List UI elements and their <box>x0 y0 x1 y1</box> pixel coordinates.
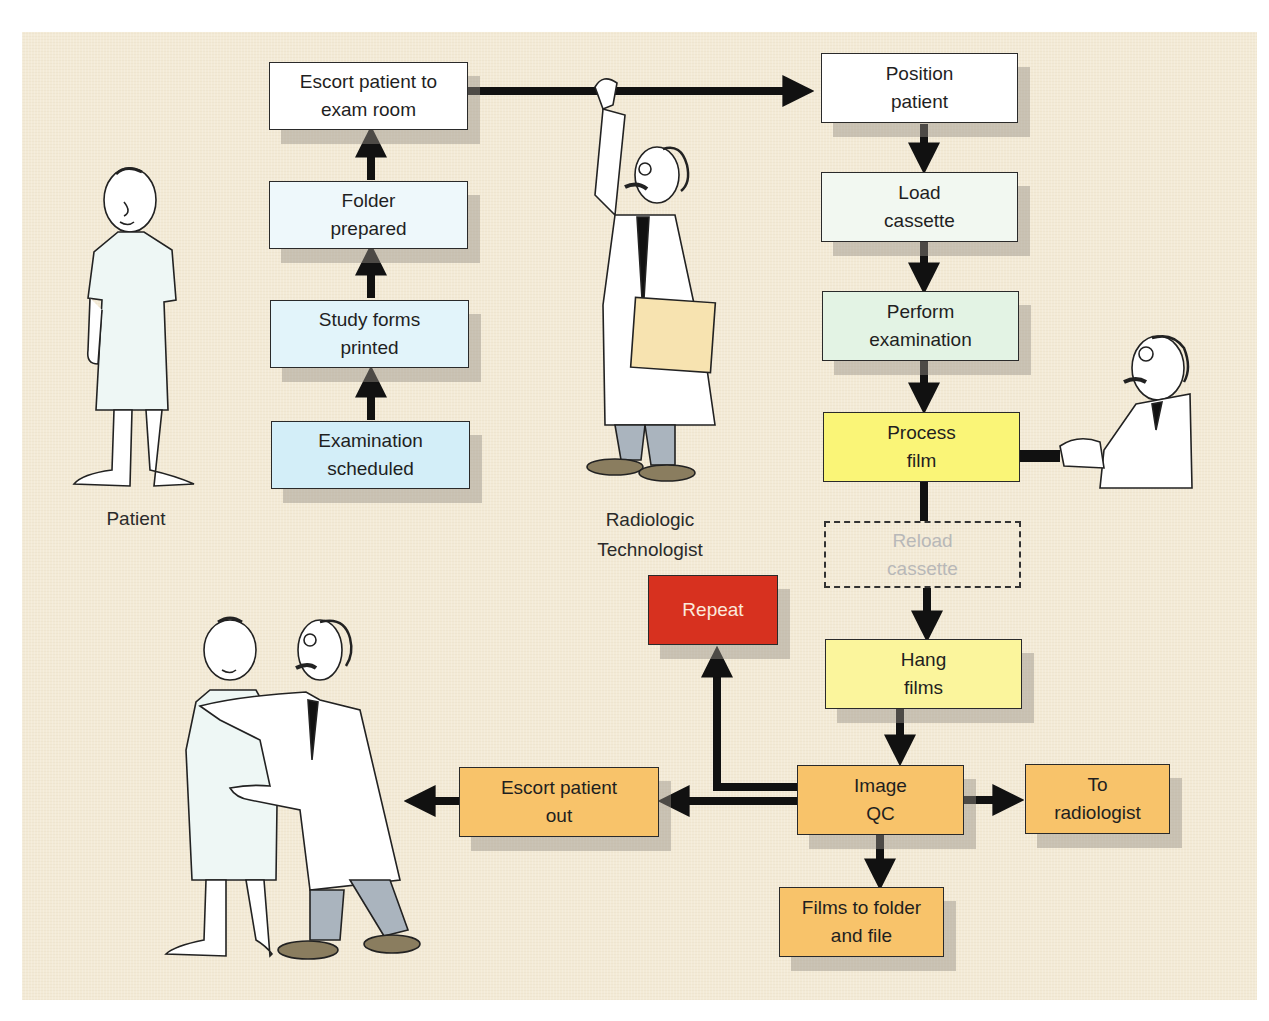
box-text: film <box>887 447 956 475</box>
box-text: examination <box>869 326 971 354</box>
box-folder-prepared: Folderprepared <box>269 181 468 249</box>
arrow-qc-to-repeat <box>717 660 797 787</box>
box-position-patient: Positionpatient <box>821 53 1018 123</box>
box-text: films <box>901 674 946 702</box>
box-escort-patient-out: Escort patientout <box>459 767 659 837</box>
box-text: Reload <box>887 527 958 555</box>
box-text: Examination <box>318 427 423 455</box>
box-text: QC <box>854 800 907 828</box>
box-text: Perform <box>869 298 971 326</box>
box-text: Films to folder <box>802 894 921 922</box>
escort-patient-figure-icon <box>160 610 430 970</box>
box-text: Hang <box>901 646 946 674</box>
box-escort-to-exam-room: Escort patient toexam room <box>269 62 468 130</box>
box-text: Process <box>887 419 956 447</box>
box-hang-films: Hangfilms <box>825 639 1022 709</box>
box-text: prepared <box>330 215 406 243</box>
box-text: Study forms <box>319 306 420 334</box>
box-text: scheduled <box>318 455 423 483</box>
box-text: Escort patient <box>501 774 617 802</box>
box-text: out <box>501 802 617 830</box>
processor-operator-icon <box>1040 320 1200 490</box>
label-line: Technologist <box>597 539 703 560</box>
box-perform-examination: Performexamination <box>822 291 1019 361</box>
technologist-label: Radiologic Technologist <box>580 505 720 565</box>
box-text: Escort patient to <box>300 68 437 96</box>
box-examination-scheduled: Examinationscheduled <box>271 421 470 489</box>
box-text: radiologist <box>1054 799 1141 827</box>
box-study-forms-printed: Study formsprinted <box>270 300 469 368</box>
box-load-cassette: Loadcassette <box>821 172 1018 242</box>
box-films-to-folder-and-file: Films to folderand file <box>779 887 944 957</box>
box-text: Repeat <box>682 596 743 624</box>
label-line: Radiologic <box>606 509 695 530</box>
box-text: cassette <box>887 555 958 583</box>
box-text: Folder <box>330 187 406 215</box>
box-image-qc: ImageQC <box>797 765 964 835</box>
box-text: printed <box>319 334 420 362</box>
box-text: patient <box>886 88 954 116</box>
box-text: and file <box>802 922 921 950</box>
box-process-film: Processfilm <box>823 412 1020 482</box>
box-text: Load <box>884 179 955 207</box>
box-text: exam room <box>300 96 437 124</box>
box-text: Image <box>854 772 907 800</box>
box-text: To <box>1054 771 1141 799</box>
box-to-radiologist: Toradiologist <box>1025 764 1170 834</box>
patient-figure-icon <box>60 160 220 500</box>
patient-label: Patient <box>86 504 186 534</box>
box-repeat: Repeat <box>648 575 778 645</box>
technologist-figure-icon <box>575 75 725 495</box>
box-reload-cassette: Reloadcassette <box>824 521 1021 588</box>
box-text: cassette <box>884 207 955 235</box>
box-text: Position <box>886 60 954 88</box>
